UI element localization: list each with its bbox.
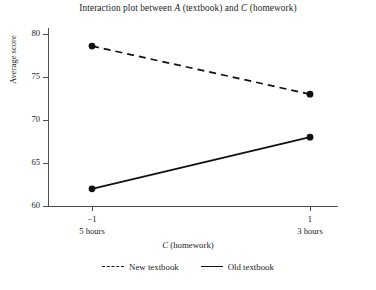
x-tick-sublabel-3-hours: 3 hours bbox=[297, 226, 323, 236]
y-tick-label-60: 60 bbox=[31, 200, 40, 210]
data-layer bbox=[48, 28, 338, 208]
series-line-new-textbook bbox=[92, 46, 310, 94]
data-point-old-textbook-plus1 bbox=[307, 134, 314, 141]
legend-swatch-solid-icon bbox=[201, 263, 223, 271]
legend-item-new-textbook: New textbook bbox=[102, 262, 179, 272]
x-axis-label: C (homework) bbox=[0, 240, 376, 250]
y-tick-label-80: 80 bbox=[31, 28, 40, 38]
chart-legend: New textbook Old textbook bbox=[0, 262, 376, 272]
series-line-old-textbook bbox=[92, 137, 310, 189]
y-axis-label: Average score bbox=[8, 35, 18, 84]
chart-title: Interaction plot between A (textbook) an… bbox=[0, 3, 376, 13]
interaction-plot-figure: Interaction plot between A (textbook) an… bbox=[0, 0, 376, 290]
legend-item-old-textbook: Old textbook bbox=[201, 262, 274, 272]
series-old-textbook bbox=[89, 134, 314, 192]
data-point-new-textbook-plus1 bbox=[307, 91, 314, 98]
series-new-textbook bbox=[89, 43, 314, 98]
chart-title-pre: Interaction plot between bbox=[79, 3, 174, 13]
y-tick-label-70: 70 bbox=[31, 114, 40, 124]
chart-title-mid: (textbook) and bbox=[180, 3, 241, 13]
x-tick-label-plus1: 1 bbox=[308, 214, 312, 224]
legend-swatch-dashed-icon bbox=[102, 263, 124, 271]
x-tick-sublabel-5-hours: 5 hours bbox=[79, 226, 105, 236]
y-tick-label-65: 65 bbox=[31, 157, 40, 167]
chart-title-post: (homework) bbox=[247, 3, 296, 13]
data-point-old-textbook-minus1 bbox=[89, 185, 96, 192]
legend-label-old-textbook: Old textbook bbox=[228, 262, 274, 272]
y-tick-label-75: 75 bbox=[31, 71, 40, 81]
legend-label-new-textbook: New textbook bbox=[129, 262, 179, 272]
x-axis-label-text: (homework) bbox=[168, 240, 214, 250]
plot-area: 60 65 70 75 80 −1 5 hours 1 3 hours bbox=[48, 28, 338, 208]
x-tick-label-minus1: −1 bbox=[87, 214, 96, 224]
data-point-new-textbook-minus1 bbox=[89, 43, 96, 50]
